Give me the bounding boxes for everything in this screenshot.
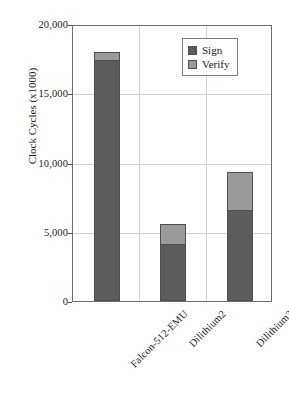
x-tick-label-falcon-512-emu: Falcon-512-EMU: [128, 308, 190, 370]
bar-segment-sign[interactable]: [227, 211, 253, 301]
legend-swatch-verify-icon: [188, 60, 197, 69]
bar-segment-verify[interactable]: [94, 52, 120, 61]
bar-falcon-512-emu[interactable]: [94, 52, 120, 301]
bar-segment-verify[interactable]: [160, 224, 186, 245]
bar-segment-sign[interactable]: [160, 245, 186, 301]
legend-label-verify: Verify: [202, 59, 230, 70]
y-tick-label-5000: 5,000: [4, 228, 68, 238]
bar-segment-sign[interactable]: [94, 61, 120, 301]
bar-segment-verify[interactable]: [227, 172, 253, 211]
legend-item-verify[interactable]: Verify: [188, 57, 230, 71]
plot-area: Sign Verify: [72, 25, 272, 302]
bar-dilithium2[interactable]: [160, 224, 186, 301]
bar-dilithium3[interactable]: [227, 172, 253, 301]
y-tick-mark-0: [68, 302, 72, 303]
y-tick-label-20000: 20,000: [4, 20, 68, 30]
y-tick-label-0: 0: [4, 297, 68, 307]
y-axis-title: Clock Cycles (x1000): [26, 1, 38, 231]
legend-label-sign: Sign: [202, 45, 222, 56]
chart-figure: Clock Cycles (x1000) 20,000 15,000 10,00…: [0, 0, 289, 400]
legend-item-sign[interactable]: Sign: [188, 43, 230, 57]
x-tick-label-dilithium3: Dilithium3: [254, 308, 289, 349]
chart-legend: Sign Verify: [182, 38, 238, 76]
legend-swatch-sign-icon: [188, 46, 197, 55]
gridline-category-1: [139, 26, 140, 301]
y-tick-label-15000: 15,000: [4, 89, 68, 99]
x-tick-label-dilithium2: Dilithium2: [187, 308, 228, 349]
y-tick-label-10000: 10,000: [4, 159, 68, 169]
